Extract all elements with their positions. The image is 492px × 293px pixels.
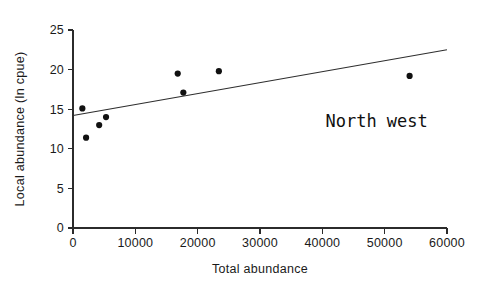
series-annotations: North west: [325, 111, 427, 131]
data-point: [175, 70, 181, 76]
y-tick-label-15: 15: [50, 103, 64, 117]
y-tick-label-25: 25: [50, 23, 64, 37]
x-tick-label-0: 0: [69, 236, 76, 250]
y-tick-label-5: 5: [57, 182, 64, 196]
y-tick-label-10: 10: [50, 142, 64, 156]
y-tick-label-20: 20: [50, 63, 64, 77]
annotation-north-west: North west: [325, 111, 427, 131]
data-point: [96, 122, 102, 128]
x-tick-label-20000: 20000: [180, 236, 216, 250]
figure-container: 0510152025010000200003000040000500006000…: [0, 0, 492, 293]
scatter-plot: 0510152025010000200003000040000500006000…: [0, 0, 492, 293]
data-point: [103, 114, 109, 120]
x-tick-label-50000: 50000: [367, 236, 403, 250]
x-tick-label-40000: 40000: [304, 236, 340, 250]
data-point: [180, 89, 186, 95]
data-point: [216, 68, 222, 74]
regression-line: [73, 50, 447, 116]
axis-ticks: [68, 30, 448, 234]
y-tick-label-0: 0: [57, 221, 64, 235]
x-tick-label-30000: 30000: [242, 236, 278, 250]
x-axis-title: Total abundance: [212, 262, 308, 276]
x-tick-label-60000: 60000: [429, 236, 465, 250]
data-point: [83, 135, 89, 141]
y-axis-title: Local abundance (ln cpue): [13, 52, 27, 207]
x-tick-label-10000: 10000: [117, 236, 153, 250]
trendline: [73, 50, 447, 116]
data-point: [407, 73, 413, 79]
data-point: [79, 105, 85, 111]
